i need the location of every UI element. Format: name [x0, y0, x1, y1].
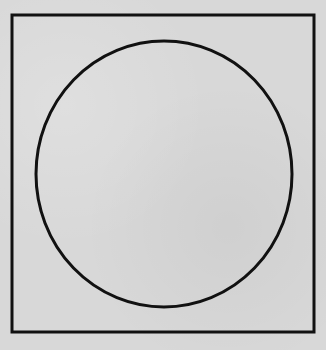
square-frame — [12, 15, 314, 332]
circle-in-square-diagram — [0, 0, 326, 350]
circle-shape — [36, 41, 292, 307]
figure-page — [0, 0, 326, 350]
